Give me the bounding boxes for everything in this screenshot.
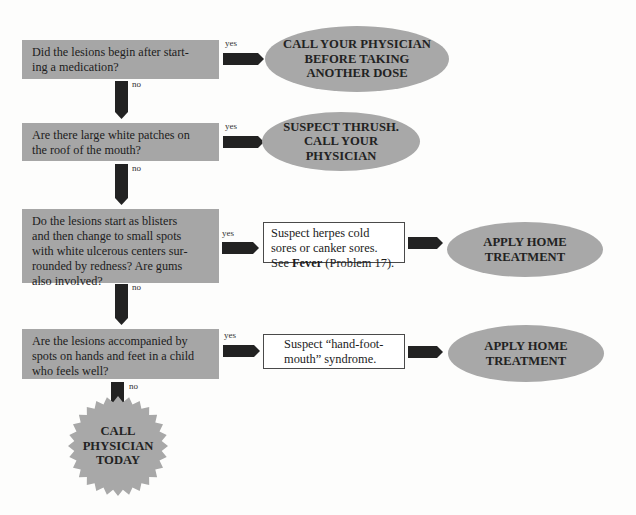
flowchart-canvas: Did the lesions begin after start- ing a… — [0, 0, 636, 515]
outcome-call-physician-today: CALL PHYSICIAN TODAY — [68, 424, 168, 468]
q3-yes-label: yes — [222, 228, 234, 238]
outcome-call-physician-before-dose: CALL YOUR PHYSICIAN BEFORE TAKING ANOTHE… — [265, 26, 449, 92]
q3-no-label: no — [132, 282, 141, 292]
q1-yes-arrow-icon — [223, 53, 265, 65]
q4-yes-arrow-icon — [223, 345, 261, 357]
q3-yes-arrow-icon — [222, 242, 260, 254]
outcome-apply-home-treatment-1: APPLY HOME TREATMENT — [447, 222, 603, 277]
q4-info-arrow-icon — [408, 346, 444, 358]
q4-no-label: no — [129, 381, 138, 391]
question-1-line-2: ing a medication? — [32, 60, 209, 75]
question-1-box: Did the lesions begin after start- ing a… — [22, 40, 219, 79]
question-2-line-1: Are there large white patches on — [32, 128, 209, 143]
q1-yes-label: yes — [225, 38, 237, 48]
q3-no-arrow-icon — [115, 284, 129, 326]
q1-no-label: no — [132, 79, 141, 89]
info-herpes-canker: Suspect herpes cold sores or canker sore… — [263, 222, 405, 263]
q4-yes-label: yes — [224, 330, 236, 340]
q2-no-arrow-icon — [115, 164, 129, 206]
q3-info-arrow-icon — [408, 237, 444, 249]
fever-reference-link: Fever — [292, 256, 322, 270]
q2-yes-label: yes — [225, 121, 237, 131]
q2-no-label: no — [132, 163, 141, 173]
info-hand-foot-mouth: Suspect “hand-foot- mouth” syndrome. — [263, 334, 405, 369]
question-1-line-1: Did the lesions begin after start- — [32, 45, 209, 60]
question-3-box: Do the lesions start as blisters and the… — [22, 209, 219, 283]
outcome-apply-home-treatment-2: APPLY HOME TREATMENT — [448, 325, 604, 382]
question-4-box: Are the lesions accompanied by spots on … — [22, 329, 219, 379]
q2-yes-arrow-icon — [223, 136, 265, 148]
question-2-box: Are there large white patches on the roo… — [22, 123, 219, 161]
question-2-line-2: the roof of the mouth? — [32, 143, 209, 158]
outcome-suspect-thrush: SUSPECT THRUSH. CALL YOUR PHYSICIAN — [262, 112, 420, 171]
q1-no-arrow-icon — [115, 81, 129, 120]
